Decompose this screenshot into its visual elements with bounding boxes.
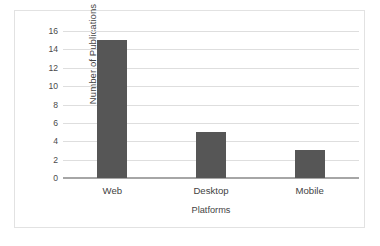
y-tick-label: 4 [53, 137, 58, 146]
bar-group: Mobile [260, 31, 359, 178]
x-category-label: Web [103, 185, 123, 196]
bar [97, 40, 127, 178]
y-tick-label: 0 [53, 174, 58, 183]
y-tick-label: 2 [53, 155, 58, 164]
y-tick-label: 12 [48, 63, 58, 72]
y-tick-label: 10 [48, 82, 58, 91]
y-tick-label: 16 [48, 27, 58, 36]
plot-area: 1614121086420 WebDesktopMobile [63, 31, 359, 178]
bar [295, 150, 325, 178]
x-category-label: Desktop [193, 185, 228, 196]
y-tick-label: 14 [48, 45, 58, 54]
bar [196, 132, 226, 178]
bar-group: Web [63, 31, 162, 178]
y-tick-label: 6 [53, 119, 58, 128]
bars-layer: WebDesktopMobile [63, 31, 359, 178]
x-category-label: Mobile [296, 185, 324, 196]
y-tick-label: 8 [53, 100, 58, 109]
bar-chart-figure: Number of Publications 1614121086420 Web… [14, 10, 365, 228]
x-axis-title: Platforms [63, 205, 359, 215]
bar-group: Desktop [162, 31, 261, 178]
